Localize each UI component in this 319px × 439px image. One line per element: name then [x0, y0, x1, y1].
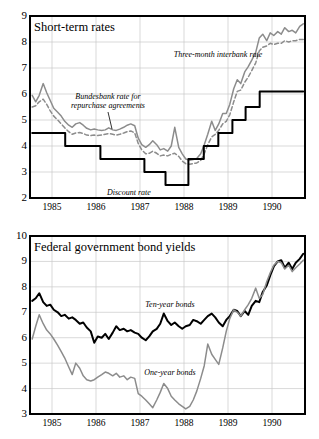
- chart-federal-government-bond-yields: Federal government bond yields Ten-year …: [0, 228, 319, 439]
- y-axis-tick-label: 2: [9, 192, 27, 203]
- bond-yields-plot: [0, 228, 319, 439]
- y-axis-tick-label: 9: [9, 255, 27, 266]
- x-axis-tick-label: 1990: [252, 202, 292, 212]
- x-axis-tick-label: 1986: [76, 202, 116, 212]
- y-axis-tick-label: 5: [9, 357, 27, 368]
- y-axis-tick-label: 9: [9, 10, 27, 21]
- figure-root: Short-term rates Three-month interbank r…: [0, 0, 319, 439]
- y-axis-tick-label: 6: [9, 332, 27, 343]
- x-axis-tick-label: 1988: [164, 202, 204, 212]
- y-axis-tick-label: 3: [9, 166, 27, 177]
- x-axis-tick-label: 1989: [208, 202, 248, 212]
- x-axis-tick-label: 1985: [32, 418, 72, 428]
- y-axis-tick-label: 8: [9, 36, 27, 47]
- chart2-title: Federal government bond yields: [34, 240, 195, 255]
- short-term-rates-plot: [0, 8, 319, 220]
- chart-short-term-rates: Short-term rates Three-month interbank r…: [0, 8, 319, 220]
- annotation-bundesbank-repo-rate-line2: repurchase agreements: [52, 101, 164, 111]
- y-axis-tick-label: 5: [9, 114, 27, 125]
- x-axis-tick-label: 1990: [252, 418, 292, 428]
- x-axis-tick-label: 1987: [120, 418, 160, 428]
- annotation-ten-year-bonds: Ten-year bonds: [125, 300, 215, 310]
- y-axis-tick-label: 10: [9, 230, 27, 241]
- annotation-three-month-interbank-rate: Three-month interbank rate: [148, 50, 288, 60]
- x-axis-tick-label: 1987: [120, 202, 160, 212]
- y-axis-tick-label: 3: [9, 408, 27, 419]
- y-axis-tick-label: 4: [9, 383, 27, 394]
- y-axis-tick-label: 8: [9, 281, 27, 292]
- annotation-discount-rate: Discount rate: [107, 188, 151, 198]
- x-axis-tick-label: 1988: [164, 418, 204, 428]
- chart1-title: Short-term rates: [34, 20, 115, 35]
- annotation-one-year-bonds: One-year bonds: [125, 368, 215, 378]
- y-axis-tick-label: 7: [9, 306, 27, 317]
- y-axis-tick-label: 6: [9, 88, 27, 99]
- y-axis-tick-label: 4: [9, 140, 27, 151]
- x-axis-tick-label: 1989: [208, 418, 248, 428]
- x-axis-tick-label: 1985: [32, 202, 72, 212]
- y-axis-tick-label: 7: [9, 62, 27, 73]
- x-axis-tick-label: 1986: [76, 418, 116, 428]
